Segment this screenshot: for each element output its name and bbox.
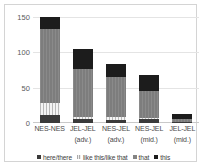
- bar-segment[interactable]: [139, 119, 159, 123]
- legend-swatch-icon: [37, 155, 41, 159]
- legend-swatch-icon: [133, 155, 137, 159]
- bar-segment[interactable]: [73, 49, 93, 69]
- legend-label: like this/like that: [83, 154, 128, 161]
- bar-segment[interactable]: [73, 119, 93, 123]
- bar-segment[interactable]: [106, 120, 126, 123]
- bar-segment[interactable]: [172, 122, 192, 123]
- stacked-bar[interactable]: [106, 64, 126, 123]
- bar-segment[interactable]: [73, 69, 93, 118]
- bar-segment[interactable]: [139, 91, 159, 119]
- plot-area: [33, 17, 199, 123]
- legend-item-like-this-like-that: like this/like that: [77, 154, 128, 161]
- bar-column[interactable]: [99, 17, 132, 123]
- bar-segment[interactable]: [106, 77, 126, 117]
- bar-column[interactable]: [66, 17, 99, 123]
- legend-label: that: [139, 154, 150, 161]
- legend-item-this: this: [154, 154, 170, 161]
- bar-segment[interactable]: [106, 64, 126, 77]
- stacked-bar[interactable]: [40, 17, 60, 123]
- bar-segment[interactable]: [139, 75, 159, 91]
- y-tick-label: 150: [17, 13, 30, 22]
- legend-swatch-icon: [154, 155, 158, 159]
- stacked-bar[interactable]: [172, 114, 192, 123]
- x-axis: NES-NESJEL-JEL(adv.)NES-JEL(adv.)NES-JEL…: [33, 124, 199, 150]
- y-tick-label: 50: [21, 83, 30, 92]
- bar-segment[interactable]: [40, 29, 60, 103]
- bar-segment[interactable]: [40, 17, 60, 29]
- x-axis-label: JEL-JEL(adv.): [66, 124, 99, 150]
- x-axis-label: JEL-JEL(mid.): [166, 124, 199, 150]
- stacked-bar[interactable]: [139, 75, 159, 123]
- y-axis: 150 100 50 0: [9, 17, 33, 123]
- legend-item-that: that: [133, 154, 150, 161]
- chart-container: 150 100 50 0 NES-NESJEL-JEL(adv.)NES-JEL…: [4, 4, 197, 162]
- legend-item-here-there: here/there: [37, 154, 72, 161]
- legend-swatch-icon: [77, 155, 81, 159]
- bar-group: [33, 17, 199, 123]
- stacked-bar[interactable]: [73, 49, 93, 123]
- x-axis-label: NES-NES: [33, 124, 66, 150]
- x-axis-label: NES-JEL(adv.): [99, 124, 132, 150]
- bar-segment[interactable]: [40, 103, 60, 115]
- y-tick-label: 100: [17, 48, 30, 57]
- legend-label: here/there: [43, 154, 72, 161]
- legend-label: this: [160, 154, 170, 161]
- bar-segment[interactable]: [40, 115, 60, 123]
- chart-legend: here/there like this/like that that this: [9, 151, 198, 163]
- y-tick-label: 0: [26, 119, 30, 128]
- bar-column[interactable]: [33, 17, 66, 123]
- bar-column[interactable]: [133, 17, 166, 123]
- bar-column[interactable]: [166, 17, 199, 123]
- x-axis-label: NES-JEL(mid.): [133, 124, 166, 150]
